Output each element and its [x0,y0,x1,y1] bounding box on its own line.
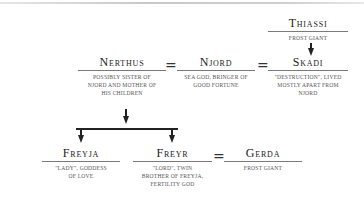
arrow-down-icon [78,135,84,143]
person-skadi: Skadi "Destruction", lived mostly apart … [268,56,348,97]
underline-thiassi [268,31,348,32]
underline-freyja [42,161,120,162]
name-gerda: Gerda [224,147,302,160]
desc-freyja: "Lady", goddess of love [42,164,120,180]
person-freyr: Freyr "Lord", twin brother of Freyja, fe… [133,147,212,188]
arrow-down-icon [169,135,175,143]
person-freyja: Freyja "Lady", goddess of love [42,147,120,180]
marriage-symbol-nerthus-njord: = [165,58,177,72]
desc-nerthus: Possibly sister of Njord and mother of h… [78,73,166,97]
person-thiassi: Thiassi Frost giant [268,17,348,42]
name-nerthus: Nerthus [78,56,166,69]
arrow-down-icon [308,48,314,56]
desc-gerda: Frost giant [224,164,302,172]
name-skadi: Skadi [268,56,348,69]
top-border [0,2,364,4]
name-thiassi: Thiassi [268,17,348,30]
underline-nerthus [78,70,166,71]
marriage-symbol-njord-skadi: = [257,58,269,72]
underline-njord [177,70,255,71]
name-njord: Njord [177,56,255,69]
desc-skadi: "Destruction", lived mostly apart from N… [268,73,348,97]
person-gerda: Gerda Frost giant [224,147,302,172]
desc-thiassi: Frost giant [268,34,348,42]
underline-freyr [133,161,212,162]
name-freyja: Freyja [42,147,120,160]
arrow-down-icon [123,116,129,124]
underline-gerda [224,161,302,162]
sibling-bar [76,128,178,130]
person-nerthus: Nerthus Possibly sister of Njord and mot… [78,56,166,97]
marriage-symbol-freyr-gerda: = [213,149,225,163]
desc-freyr: "Lord", twin brother of Freyja, fertilit… [133,164,212,188]
name-freyr: Freyr [133,147,212,160]
desc-njord: Sea god, bringer of good fortune [177,73,255,89]
underline-skadi [268,70,348,71]
person-njord: Njord Sea god, bringer of good fortune [177,56,255,89]
